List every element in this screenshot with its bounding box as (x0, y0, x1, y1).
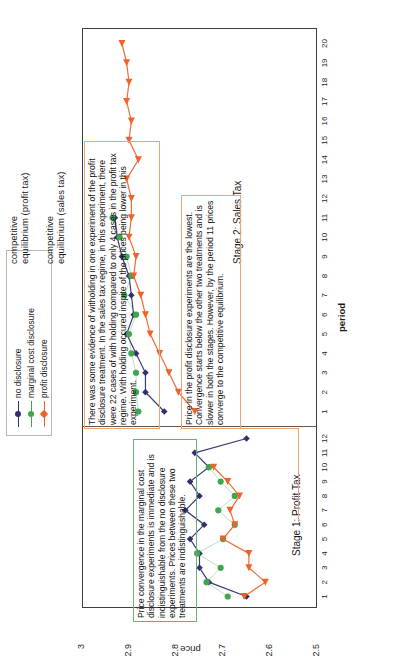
x-axis-tick-label: 6 (320, 517, 329, 533)
x-axis-tick-label: 13 (320, 171, 329, 187)
x-axis-tick-label: 8 (320, 268, 329, 284)
competitive-equilibrium-sales-tax-note: competitive equilibrium (sales tax) (44, 172, 66, 264)
legend-item-profit-disclosure: profit disclosure (38, 259, 50, 427)
x-axis-tick-label: 9 (320, 474, 329, 490)
legend-item-marginal-cost-disclosure: marginal cost disclosure (25, 259, 37, 427)
callout-leader-line-1 (241, 428, 299, 429)
callout-marginal-cost-convergence: Price convergence in the marginal cost d… (133, 439, 197, 622)
chart-legend: no disclosure marginal cost disclosure p… (6, 250, 52, 436)
x-axis-tick-label: 2 (320, 384, 329, 400)
x-axis-tick-label: 20 (320, 36, 329, 52)
ce-sales-line2: equilibrium (sales tax) (55, 172, 66, 264)
x-axis-tick-label: 6 (320, 307, 329, 323)
stage-1-caption: Stage 1: Profit Tax (291, 474, 302, 556)
x-axis-tick-label: 7 (320, 287, 329, 303)
competitive-equilibrium-profit-tax-note: competitive equilibrium (profit tax) (8, 173, 30, 264)
ce-sales-line1: competitive (44, 172, 55, 264)
x-axis-tick-label: 16 (320, 113, 329, 129)
y-axis-title: price (180, 644, 201, 655)
x-axis-tick-label: 10 (320, 229, 329, 245)
y-axis-tick-label: 2.9 (123, 644, 133, 668)
x-axis-tick-label: 14 (320, 152, 329, 168)
legend-label-profit-disclosure: profit disclosure (39, 339, 49, 398)
callout-profit-disclosure-lowest: Price in the profit disclosure experimen… (181, 195, 241, 429)
x-axis-tick-label: 7 (320, 502, 329, 518)
x-axis-tick-label: 10 (320, 459, 329, 475)
x-axis-tick-label: 1 (320, 589, 329, 605)
x-axis-tick-label: 15 (320, 132, 329, 148)
x-axis-tick-label: 18 (320, 74, 329, 90)
x-axis-tick-label: 3 (320, 365, 329, 381)
x-axis-tick-label: 1 (320, 404, 329, 420)
legend-item-no-disclosure: no disclosure (12, 259, 24, 427)
legend-marker-no-disclosure (13, 401, 23, 427)
x-axis-tick-label: 17 (320, 94, 329, 110)
x-axis-tick-label: 3 (320, 560, 329, 576)
x-axis-tick-label: 11 (320, 210, 329, 226)
x-axis-tick-label: 9 (320, 249, 329, 265)
x-axis-tick-label: 12 (320, 431, 329, 447)
legend-label-no-disclosure: no disclosure (13, 349, 23, 398)
x-axis-tick-label: 5 (320, 531, 329, 547)
x-axis-tick-label: 12 (320, 190, 329, 206)
x-axis-tick-label: 2 (320, 574, 329, 590)
y-axis-tick-label: 2.6 (264, 644, 274, 668)
x-axis-tick-label: 4 (320, 345, 329, 361)
x-axis-tick-label: 8 (320, 488, 329, 504)
legend-marker-marginal-cost-disclosure (26, 401, 36, 427)
callout-leader-line-2 (298, 428, 299, 522)
y-axis-tick-label: 2.7 (217, 644, 227, 668)
callout-witholding-evidence: There was some evidence of witholding in… (84, 141, 160, 429)
x-axis-tick-label: 5 (320, 326, 329, 342)
ce-profit-line2: equilibrium (profit tax) (19, 173, 30, 264)
legend-marker-profit-disclosure (39, 401, 49, 427)
x-axis-tick-label: 4 (320, 545, 329, 561)
y-axis-tick-label: 2.5 (311, 644, 321, 668)
x-axis-tick-label: 11 (320, 445, 329, 461)
x-axis-tick-label: 19 (320, 55, 329, 71)
legend-label-marginal-cost-disclosure: marginal cost disclosure (26, 308, 36, 398)
y-axis-tick-label: 3 (76, 644, 86, 668)
rotated-figure-stage: no disclosure marginal cost disclosure p… (0, 0, 399, 668)
chart-figure: no disclosure marginal cost disclosure p… (0, 0, 399, 668)
ce-profit-line1: competitive (8, 173, 19, 264)
x-axis-title: period (336, 303, 347, 332)
y-axis-tick-label: 2.8 (170, 644, 180, 668)
